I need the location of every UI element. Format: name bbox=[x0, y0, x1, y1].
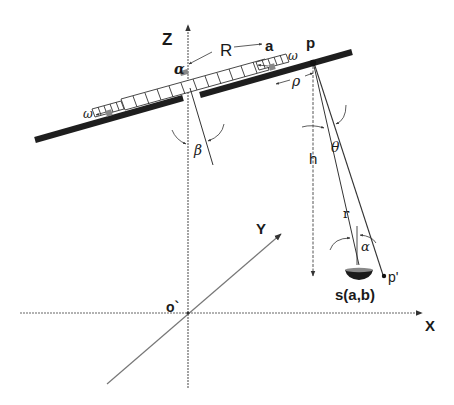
beta-label: β bbox=[194, 143, 202, 157]
beta-arc-left bbox=[172, 130, 186, 144]
point-p-prime-dot bbox=[382, 274, 386, 278]
x-axis-label: X bbox=[425, 318, 435, 333]
ray-to-p-prime bbox=[315, 66, 383, 275]
rho-arrow-right bbox=[305, 73, 313, 76]
rho-arrow-left bbox=[276, 80, 290, 84]
theta-label: θ bbox=[331, 140, 339, 154]
point-p-prime-label: p' bbox=[388, 270, 398, 284]
ray-to-s bbox=[314, 66, 359, 265]
origin-point bbox=[187, 312, 190, 315]
center-alpha-symbol: α bbox=[174, 62, 185, 76]
point-p-dot bbox=[310, 60, 316, 66]
point-s-label: s(a,b) bbox=[335, 287, 375, 302]
point-p-label: p bbox=[306, 35, 315, 50]
receiver-rim bbox=[345, 268, 373, 272]
r-distance-label: R bbox=[220, 42, 232, 59]
r-arrow-right bbox=[234, 44, 262, 47]
alpha-arc-left bbox=[330, 238, 350, 250]
alpha-label: α bbox=[361, 240, 370, 253]
h-label: h bbox=[309, 151, 317, 166]
beta-arc-right bbox=[208, 124, 224, 141]
point-a-label: a bbox=[265, 38, 273, 53]
r-label: r bbox=[343, 207, 349, 220]
origin-label: o` bbox=[166, 300, 179, 314]
rho-label: ρ bbox=[292, 74, 300, 88]
diagram-canvas bbox=[0, 0, 454, 405]
y-axis-label: Y bbox=[256, 221, 266, 236]
theta-arc-right bbox=[336, 105, 346, 124]
z-axis-label: Z bbox=[162, 31, 172, 48]
r-arrow-left bbox=[189, 52, 212, 64]
omega-right-label: ω bbox=[288, 50, 298, 62]
omega-left-label: ω bbox=[83, 108, 93, 120]
y-axis bbox=[107, 234, 281, 384]
